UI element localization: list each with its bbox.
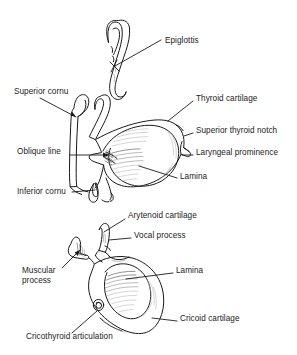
label-arytenoid-cartilage: Arytenoid cartilage — [128, 211, 197, 221]
anatomy-drawing — [0, 0, 297, 355]
label-superior-thyroid-notch: Superior thyroid notch — [196, 126, 277, 136]
label-lamina-cricoid: Lamina — [176, 266, 203, 276]
label-superior-cornu: Superior cornu — [14, 87, 68, 97]
label-lamina-thyroid: Lamina — [180, 172, 207, 182]
muscular-process-shape — [68, 237, 94, 264]
label-inferior-cornu: Inferior cornu — [17, 187, 66, 197]
anatomy-figure: Epiglottis Superior cornu Thyroid cartil… — [0, 0, 297, 355]
label-cricothyroid-articulation: Cricothyroid articulation — [26, 332, 113, 342]
arytenoid-cartilage-shape — [95, 223, 110, 256]
label-thyroid-cartilage: Thyroid cartilage — [196, 94, 257, 104]
label-muscular-process: Muscular process — [22, 266, 56, 286]
label-laryngeal-prominence: Laryngeal prominence — [196, 148, 278, 158]
label-cricoid-cartilage: Cricoid cartilage — [180, 314, 240, 324]
cricoid-cartilage-shape — [89, 256, 164, 334]
thyroid-cartilage-shape — [69, 95, 190, 203]
label-vocal-process: Vocal process — [134, 231, 186, 241]
label-epiglottis: Epiglottis — [165, 36, 199, 46]
label-oblique-line: Oblique line — [17, 147, 61, 157]
